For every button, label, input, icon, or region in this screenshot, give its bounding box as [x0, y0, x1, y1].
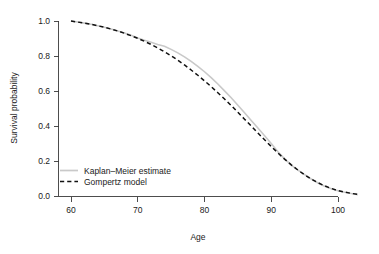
x-tick-label: 80	[200, 205, 210, 215]
x-tick-group: 60708090100	[66, 197, 345, 216]
y-tick-group: 0.00.20.40.60.81.0	[38, 16, 58, 201]
legend: Kaplan–Meier estimate Gompertz model	[60, 166, 171, 187]
legend-label-gompertz: Gompertz model	[84, 177, 147, 187]
x-axis-title: Age	[190, 232, 205, 242]
chart-canvas: 0.00.20.40.60.81.0 60708090100 Kaplan–Me…	[0, 0, 379, 254]
y-tick-label: 0.4	[38, 121, 50, 131]
x-tick-label: 70	[133, 205, 143, 215]
x-tick-label: 60	[66, 205, 76, 215]
survival-plot: 0.00.20.40.60.81.0 60708090100 Kaplan–Me…	[0, 0, 379, 254]
y-tick-label: 0.8	[38, 51, 50, 61]
x-tick-label: 90	[267, 205, 277, 215]
y-axis-title: Survival probability	[9, 72, 19, 144]
y-tick-label: 0.2	[38, 156, 50, 166]
y-tick-label: 0.6	[38, 86, 50, 96]
x-tick-label: 100	[331, 205, 345, 215]
y-tick-label: 0.0	[38, 191, 50, 201]
y-tick-label: 1.0	[38, 16, 50, 26]
legend-label-kaplan-meier: Kaplan–Meier estimate	[84, 166, 171, 176]
